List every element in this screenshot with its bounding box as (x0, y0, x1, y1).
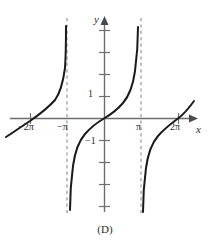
caption-container: (D) (0, 219, 210, 237)
curve-branch-right (143, 101, 194, 212)
x-tick-label-pi: π (136, 122, 141, 132)
y-tick-label-neg-one: −1 (85, 136, 96, 146)
x-axis-arrowhead (189, 115, 198, 123)
figure-container: y x −2π −π π 2π 1 −1 (D) (0, 0, 210, 245)
x-tick-label-neg-2pi: −2π (18, 122, 34, 132)
y-axis-arrowhead (101, 16, 109, 25)
figure-caption: (D) (97, 223, 112, 235)
y-tick-label-one: 1 (88, 89, 93, 99)
y-axis-label: y (94, 14, 99, 25)
x-tick-label-neg-pi: −π (57, 122, 68, 132)
x-tick-label-2pi: 2π (170, 122, 180, 132)
x-axis-label: x (196, 124, 201, 135)
